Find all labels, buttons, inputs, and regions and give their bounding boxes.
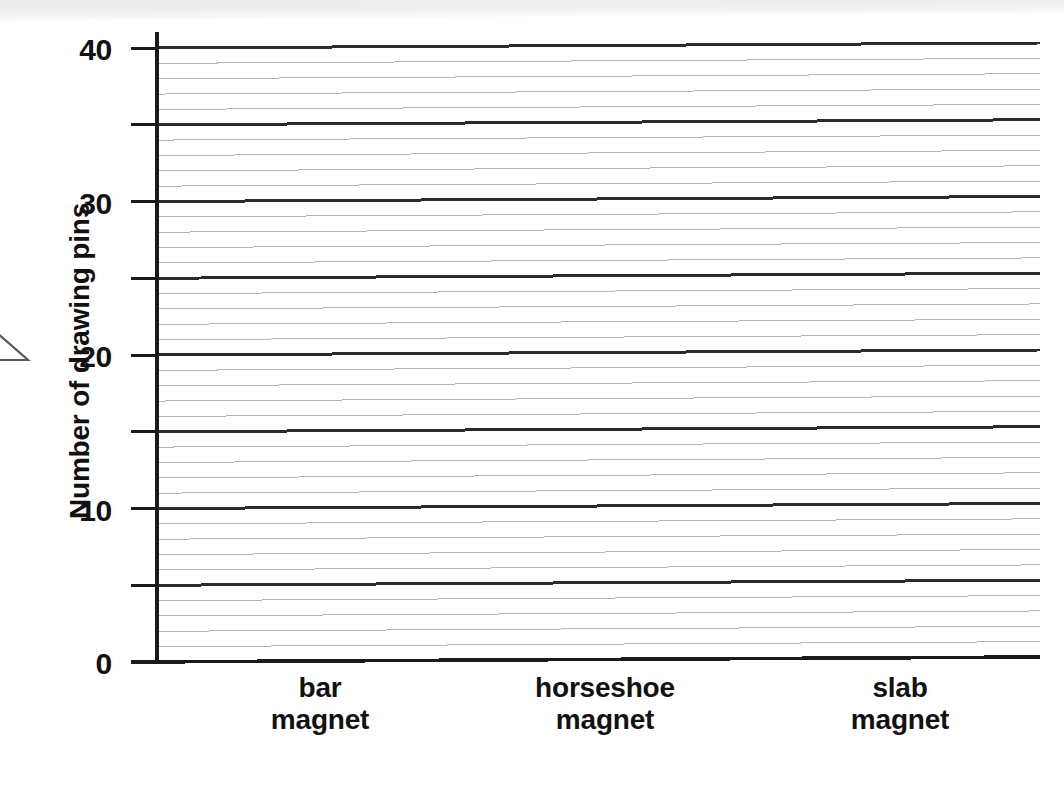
x-category-label-horseshoe-magnet: horseshoe magnet bbox=[485, 672, 725, 736]
plot-area bbox=[157, 48, 1040, 662]
y-axis-title: Number of drawing pins bbox=[64, 161, 96, 561]
y-tick-label-40: 40 bbox=[22, 33, 112, 67]
x-category-label-slab-magnet: slab magnet bbox=[780, 672, 1020, 736]
y-tick-label-0: 0 bbox=[22, 647, 112, 681]
x-category-line1: horseshoe bbox=[535, 672, 675, 703]
bar-chart-template: 40 30 20 10 0 Number of drawing pins bar… bbox=[0, 0, 1064, 787]
x-category-line2: magnet bbox=[780, 704, 1020, 736]
x-category-line1: bar bbox=[299, 672, 342, 703]
x-category-line2: magnet bbox=[485, 704, 725, 736]
x-category-label-bar-magnet: bar magnet bbox=[200, 672, 440, 736]
x-category-line2: magnet bbox=[200, 704, 440, 736]
x-category-line1: slab bbox=[872, 672, 927, 703]
